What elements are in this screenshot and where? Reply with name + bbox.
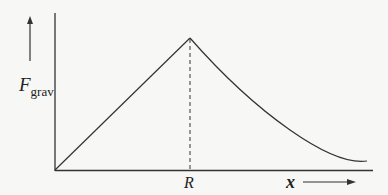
y-axis-label-subscript: grav [31,84,54,99]
force-diagram [0,0,388,195]
inside-curve [55,38,190,170]
y-axis-label: Fgrav [19,74,54,96]
x-axis-label: x [286,172,295,193]
r-label: R [184,174,194,192]
right-arrow-icon [347,179,356,185]
up-arrow-icon [27,16,33,24]
outside-curve [190,38,367,161]
